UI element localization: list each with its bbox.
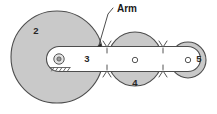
gear-2-label: 2 — [33, 25, 38, 36]
arm-annotation-label: Arm — [117, 3, 137, 14]
pin-4-circle — [132, 57, 137, 62]
gear-4-label: 4 — [132, 77, 138, 88]
ground-pivot-inner — [57, 57, 61, 61]
arm-3-label: 3 — [84, 53, 89, 64]
gear-5-label: 5 — [196, 53, 202, 64]
pin-joint-4 — [132, 57, 137, 62]
pin-joint-5 — [185, 57, 190, 62]
pin-5-circle — [185, 57, 190, 62]
gear-train-diagram: Arm 2 3 4 5 — [0, 0, 217, 114]
gear-train-canvas: Arm 2 3 4 5 — [0, 0, 217, 114]
